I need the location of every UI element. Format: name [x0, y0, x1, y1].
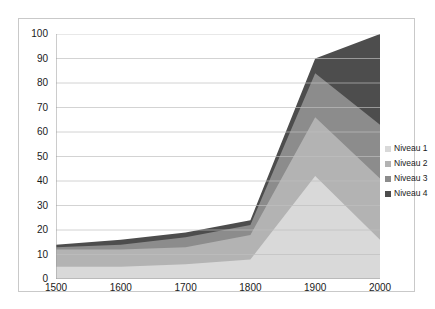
plot-inner: [56, 34, 380, 279]
chart-legend: Niveau 1Niveau 2Niveau 3Niveau 4: [385, 141, 435, 201]
stacked-area-chart: [56, 34, 380, 279]
y-axis-tick-label: 70: [37, 103, 48, 113]
x-axis-tick-label: 1700: [174, 283, 196, 293]
y-axis-tick-label: 30: [37, 201, 48, 211]
y-axis-tick-label: 40: [37, 176, 48, 186]
legend-item[interactable]: Niveau 4: [385, 186, 435, 201]
x-axis-labels: 150016001700180019002000: [56, 281, 380, 299]
legend-swatch-icon: [385, 176, 391, 182]
legend-item[interactable]: Niveau 2: [385, 156, 435, 171]
y-axis-tick-label: 80: [37, 78, 48, 88]
plot-area: [56, 34, 380, 279]
legend-label: Niveau 1: [394, 144, 428, 153]
chart-screenshot: 0102030405060708090100 15001600170018001…: [0, 0, 435, 309]
legend-swatch-icon: [385, 191, 391, 197]
legend-label: Niveau 4: [394, 189, 428, 198]
x-axis-tick-label: 1900: [304, 283, 326, 293]
x-axis-tick-label: 1500: [45, 283, 67, 293]
x-axis-tick-label: 2000: [369, 283, 391, 293]
y-axis-tick-label: 60: [37, 127, 48, 137]
legend-item[interactable]: Niveau 3: [385, 171, 435, 186]
legend-label: Niveau 3: [394, 174, 428, 183]
x-axis-tick-label: 1600: [110, 283, 132, 293]
y-axis-tick-label: 10: [37, 250, 48, 260]
y-axis-labels: 0102030405060708090100: [19, 34, 52, 279]
legend-swatch-icon: [385, 161, 391, 167]
legend-item[interactable]: Niveau 1: [385, 141, 435, 156]
y-axis-tick-label: 20: [37, 225, 48, 235]
y-axis-tick-label: 100: [31, 29, 48, 39]
y-axis-tick-label: 90: [37, 54, 48, 64]
chart-frame: 0102030405060708090100 15001600170018001…: [18, 18, 415, 292]
y-axis-tick-label: 50: [37, 152, 48, 162]
legend-label: Niveau 2: [394, 159, 428, 168]
legend-swatch-icon: [385, 146, 391, 152]
x-axis-tick-label: 1800: [239, 283, 261, 293]
